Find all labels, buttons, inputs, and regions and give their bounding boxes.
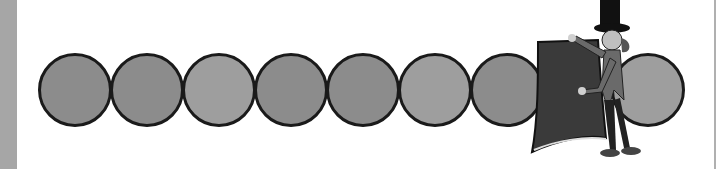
- circle-5: [326, 53, 400, 127]
- circle-1: [38, 53, 112, 127]
- left-side-bar: [0, 0, 17, 169]
- circle-6: [398, 53, 472, 127]
- cloth-icon: [532, 40, 606, 152]
- circle-2: [110, 53, 184, 127]
- circle-3: [182, 53, 256, 127]
- right-border-line: [714, 0, 716, 169]
- face-icon: [602, 30, 622, 50]
- circle-4: [254, 53, 328, 127]
- magician-with-cloth-illustration: [528, 0, 648, 160]
